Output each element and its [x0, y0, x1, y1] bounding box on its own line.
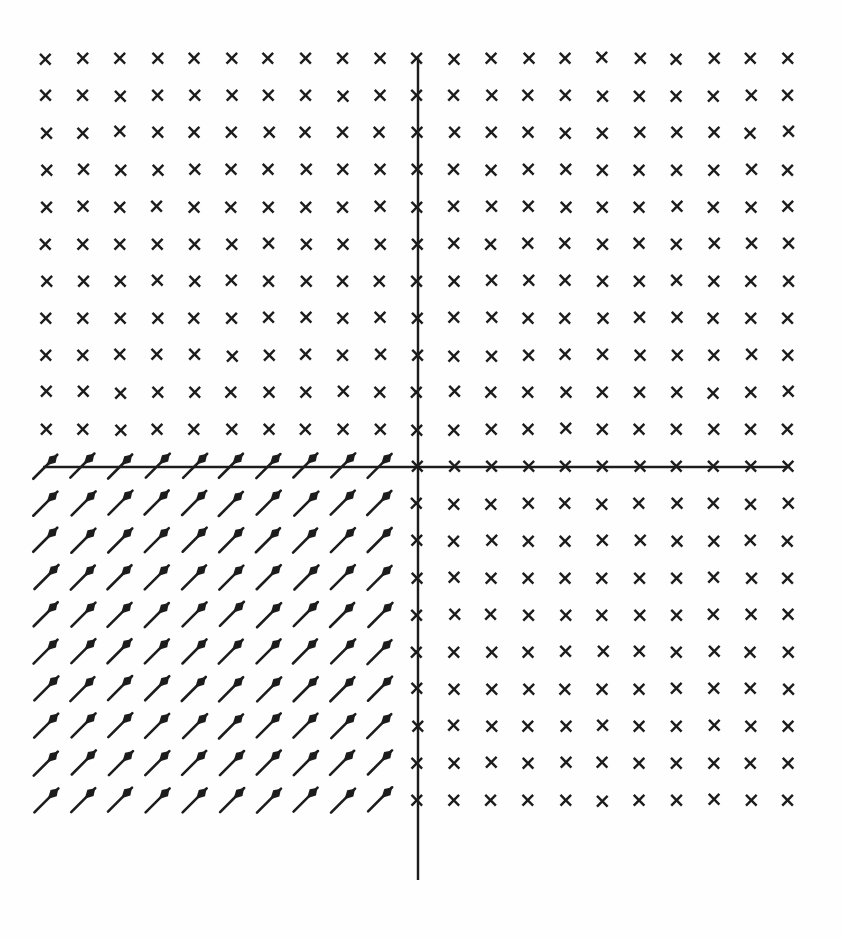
cross-marker: × — [38, 158, 56, 182]
cross-marker: × — [36, 47, 54, 71]
cross-marker: × — [556, 677, 574, 701]
cross-marker: × — [297, 342, 315, 366]
cross-marker: × — [482, 566, 500, 590]
cross-marker: × — [334, 157, 352, 181]
cross-marker: × — [111, 232, 129, 256]
cross-marker: × — [483, 677, 501, 701]
cross-marker: × — [668, 268, 686, 292]
cross-marker: × — [779, 306, 797, 330]
cross-marker: × — [148, 417, 166, 441]
cross-marker: × — [149, 380, 167, 404]
cross-marker: × — [483, 305, 501, 329]
cross-marker: × — [556, 268, 574, 292]
cross-marker: × — [408, 269, 426, 293]
cross-marker: × — [704, 84, 722, 108]
cross-marker: × — [742, 195, 760, 219]
cross-marker: × — [556, 491, 574, 515]
cross-marker: × — [483, 268, 501, 292]
cross-marker: × — [742, 676, 760, 700]
cross-marker: × — [557, 121, 575, 145]
cross-marker: × — [630, 788, 648, 812]
cross-marker: × — [445, 269, 463, 293]
cross-marker: × — [631, 528, 649, 552]
cross-marker: × — [593, 750, 611, 774]
cross-marker: × — [408, 603, 426, 627]
cross-marker: × — [741, 640, 759, 664]
cross-marker: × — [445, 305, 463, 329]
cross-marker: × — [408, 528, 426, 552]
cross-marker: × — [705, 639, 723, 663]
cross-marker: × — [519, 788, 537, 812]
cross-marker: × — [186, 232, 204, 256]
cross-marker: × — [297, 195, 315, 219]
cross-marker: × — [667, 84, 685, 108]
cross-marker: × — [445, 231, 463, 255]
cross-marker: × — [630, 751, 648, 775]
cross-marker: × — [186, 269, 204, 293]
cross-marker: × — [334, 232, 352, 256]
cross-marker: × — [370, 120, 388, 144]
cross-marker: × — [482, 158, 500, 182]
cross-marker: × — [705, 676, 723, 700]
cross-marker: × — [519, 306, 537, 330]
cross-marker: × — [446, 379, 464, 403]
cross-marker: × — [260, 343, 278, 367]
cross-marker: × — [630, 677, 648, 701]
cross-marker: × — [743, 342, 761, 366]
cross-marker: × — [630, 158, 648, 182]
cross-marker: × — [706, 713, 724, 737]
cross-marker: × — [148, 194, 166, 218]
cross-marker: × — [556, 231, 574, 255]
cross-marker: × — [779, 788, 797, 812]
cross-marker: × — [520, 46, 538, 70]
cross-marker: × — [704, 306, 722, 330]
cross-marker: × — [780, 231, 798, 255]
cross-marker: × — [520, 268, 538, 292]
cross-marker: × — [74, 306, 92, 330]
cross-marker: × — [557, 380, 575, 404]
cross-marker: × — [668, 788, 686, 812]
cross-marker: × — [222, 157, 240, 181]
cross-marker: × — [111, 342, 129, 366]
cross-marker: × — [482, 232, 500, 256]
cross-marker: × — [519, 380, 537, 404]
cross-marker: × — [594, 269, 612, 293]
cross-marker: × — [705, 343, 723, 367]
cross-marker: × — [482, 750, 500, 774]
cross-marker: × — [38, 195, 56, 219]
cross-marker: × — [296, 417, 314, 441]
cross-marker: × — [370, 269, 388, 293]
cross-marker: × — [223, 344, 241, 368]
cross-marker: × — [223, 417, 241, 441]
cross-marker: × — [742, 492, 760, 516]
cross-marker: × — [223, 46, 241, 70]
cross-marker: × — [557, 750, 575, 774]
cross-marker: × — [557, 639, 575, 663]
cross-marker: × — [74, 343, 92, 367]
cross-marker: × — [519, 714, 537, 738]
cross-marker: × — [75, 269, 93, 293]
cross-marker: × — [594, 713, 612, 737]
cross-marker: × — [482, 602, 500, 626]
cross-marker: × — [37, 232, 55, 256]
cross-marker: × — [185, 417, 203, 441]
cross-marker: × — [222, 120, 240, 144]
cross-marker: × — [74, 194, 92, 218]
cross-marker: × — [372, 232, 390, 256]
cross-marker: × — [668, 120, 686, 144]
cross-marker: × — [704, 602, 722, 626]
cross-marker: × — [557, 416, 575, 440]
cross-marker: × — [483, 417, 501, 441]
cross-marker: × — [519, 640, 537, 664]
cross-marker: × — [742, 528, 760, 552]
cross-marker: × — [335, 379, 353, 403]
cross-marker: × — [519, 157, 537, 181]
cross-marker: × — [149, 120, 167, 144]
cross-marker: × — [445, 418, 463, 442]
cross-marker: × — [297, 83, 315, 107]
cross-marker: × — [520, 343, 538, 367]
cross-marker: × — [223, 83, 241, 107]
cross-marker: × — [593, 789, 611, 813]
cross-marker: × — [667, 232, 685, 256]
cross-marker: × — [408, 380, 426, 404]
